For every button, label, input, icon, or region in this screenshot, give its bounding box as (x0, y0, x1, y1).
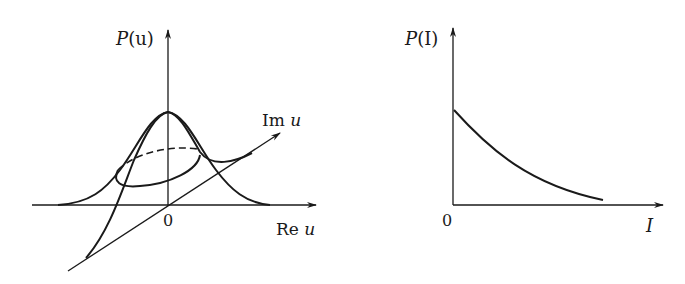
p-u-label: P(u) (115, 28, 154, 49)
left-panel: P(u) Im u Re u 0 (32, 28, 316, 271)
origin-label-right: 0 (442, 211, 452, 230)
p-i-label: P(I) (404, 28, 438, 49)
dashed-ellipse-back (118, 148, 198, 170)
origin-label-left: 0 (163, 211, 173, 230)
im-u-axis (68, 133, 280, 271)
right-panel: P(I) I 0 (404, 28, 663, 236)
decaying-exponential-curve (454, 110, 603, 200)
solid-ellipse-front (116, 155, 200, 186)
re-u-label: Re u (276, 219, 315, 239)
figure-canvas: P(u) Im u Re u 0 P(I) I 0 (0, 0, 685, 284)
i-label: I (645, 215, 654, 236)
bell-curve-imag-front (86, 112, 168, 258)
bell-curve-imag-back (168, 112, 252, 162)
im-u-label: Im u (262, 110, 301, 130)
